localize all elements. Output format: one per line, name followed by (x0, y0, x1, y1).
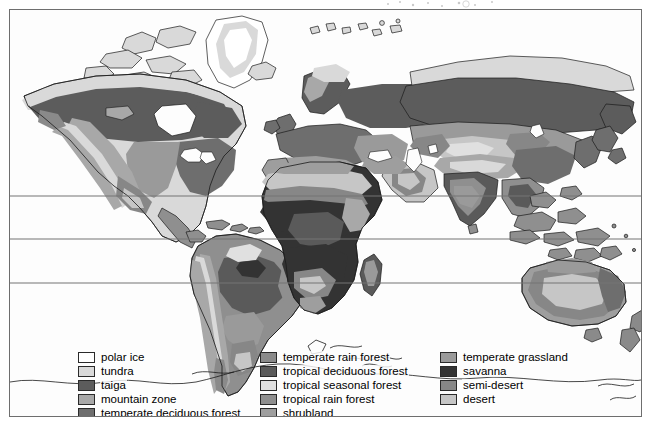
legend-label-temperate-deciduous-forest: temperate deciduous forest (100, 407, 241, 417)
legend-item-savanna[interactable]: savanna (440, 364, 569, 378)
legend-item-tundra[interactable]: tundra (78, 364, 241, 378)
legend-label-tropical-seasonal-forest: tropical seasonal forest (282, 379, 402, 391)
legend-label-semi-desert: semi-desert (462, 379, 524, 391)
legend-label-tropical-rain-forest: tropical rain forest (282, 393, 375, 405)
legend-column-3: temperate grassland savanna semi-desert … (440, 350, 569, 406)
legend-label-temperate-grassland: temperate grassland (462, 351, 569, 363)
legend-label-tropical-deciduous-forest: tropical deciduous forest (282, 365, 409, 377)
legend-label-temperate-rain-forest: temperate rain forest (282, 351, 390, 363)
legend-label-taiga: taiga (100, 379, 127, 391)
legend-swatch-desert (440, 394, 457, 405)
legend-item-desert[interactable]: desert (440, 392, 569, 406)
legend-item-temperate-deciduous-forest[interactable]: temperate deciduous forest (78, 406, 241, 417)
legend-item-taiga[interactable]: taiga (78, 378, 241, 392)
map-frame: polar ice tundra taiga mountain zone tem… (9, 9, 642, 417)
legend-swatch-tropical-seasonal-forest (260, 380, 277, 391)
legend-column-2: temperate rain forest tropical deciduous… (260, 350, 409, 417)
legend-label-shrubland: shrubland (282, 407, 335, 417)
legend-label-tundra: tundra (100, 365, 135, 377)
legend-item-tropical-deciduous-forest[interactable]: tropical deciduous forest (260, 364, 409, 378)
legend-label-polar-ice: polar ice (100, 351, 145, 363)
legend-label-mountain-zone: mountain zone (100, 393, 177, 405)
legend-swatch-tropical-deciduous-forest (260, 366, 277, 377)
biome-map-figure: polar ice tundra taiga mountain zone tem… (0, 0, 651, 428)
legend-item-temperate-grassland[interactable]: temperate grassland (440, 350, 569, 364)
legend-swatch-tropical-rain-forest (260, 394, 277, 405)
legend-column-1: polar ice tundra taiga mountain zone tem… (78, 350, 241, 417)
legend-item-semi-desert[interactable]: semi-desert (440, 378, 569, 392)
legend: polar ice tundra taiga mountain zone tem… (78, 350, 638, 417)
legend-swatch-mountain-zone (78, 394, 95, 405)
legend-item-polar-ice[interactable]: polar ice (78, 350, 241, 364)
legend-swatch-temperate-rain-forest (260, 352, 277, 363)
legend-swatch-polar-ice (78, 352, 95, 363)
legend-label-savanna: savanna (462, 365, 507, 377)
legend-item-tropical-seasonal-forest[interactable]: tropical seasonal forest (260, 378, 409, 392)
legend-swatch-temperate-deciduous-forest (78, 408, 95, 418)
legend-item-temperate-rain-forest[interactable]: temperate rain forest (260, 350, 409, 364)
legend-item-tropical-rain-forest[interactable]: tropical rain forest (260, 392, 409, 406)
legend-item-mountain-zone[interactable]: mountain zone (78, 392, 241, 406)
legend-swatch-taiga (78, 380, 95, 391)
legend-item-shrubland[interactable]: shrubland (260, 406, 409, 417)
legend-label-desert: desert (462, 393, 496, 405)
legend-swatch-savanna (440, 366, 457, 377)
legend-swatch-semi-desert (440, 380, 457, 391)
legend-swatch-temperate-grassland (440, 352, 457, 363)
legend-swatch-shrubland (260, 408, 277, 418)
legend-swatch-tundra (78, 366, 95, 377)
